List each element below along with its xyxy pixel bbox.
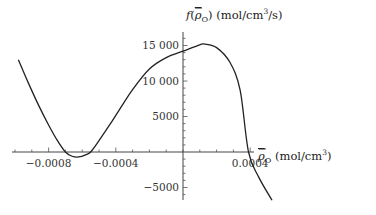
tick-labels: −0.0008−0.00040.000415 00010 0005000−500… bbox=[26, 39, 269, 193]
y-tick-label: −5000 bbox=[143, 181, 179, 193]
x-tick-label: −0.0004 bbox=[93, 157, 139, 169]
x-tick-label: −0.0008 bbox=[26, 157, 72, 169]
y-tick-label: 10 000 bbox=[142, 75, 179, 87]
y-tick-label: 15 000 bbox=[142, 39, 179, 51]
ticks bbox=[15, 38, 250, 194]
x-axis-label: ρO (mol/cm3) bbox=[257, 148, 331, 165]
data-curve bbox=[18, 44, 272, 200]
axes bbox=[12, 32, 254, 200]
line-chart: −0.0008−0.00040.000415 00010 0005000−500… bbox=[0, 0, 376, 215]
y-axis-label: f(ρO) (mol/cm3/s) bbox=[185, 7, 283, 24]
y-tick-label: 5000 bbox=[152, 110, 179, 122]
